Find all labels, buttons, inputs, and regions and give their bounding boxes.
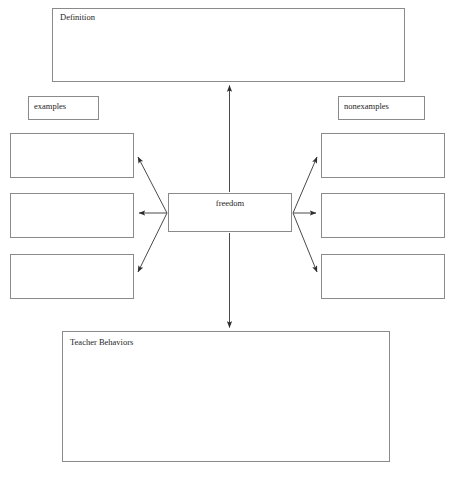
center-concept-label: freedom: [168, 198, 292, 208]
nonexamples-heading-label: nonexamples: [344, 102, 389, 111]
nonexample-slot-3[interactable]: [321, 254, 445, 299]
teacher-behaviors-label: Teacher Behaviors: [70, 338, 133, 347]
arrow-center-to-example-3: [138, 213, 167, 272]
nonexample-slot-1[interactable]: [321, 133, 445, 178]
definition-label: Definition: [60, 13, 95, 22]
nonexample-slot-2[interactable]: [321, 193, 445, 238]
arrow-center-to-nonexample-3: [293, 213, 317, 272]
examples-heading-label: examples: [34, 102, 66, 111]
arrow-center-to-nonexample-1: [293, 157, 317, 213]
teacher-behaviors-box[interactable]: [62, 331, 390, 462]
arrow-center-to-example-1: [138, 157, 167, 213]
example-slot-1[interactable]: [10, 133, 134, 178]
example-slot-3[interactable]: [10, 254, 134, 299]
definition-box[interactable]: [52, 8, 405, 82]
example-slot-2[interactable]: [10, 193, 134, 238]
